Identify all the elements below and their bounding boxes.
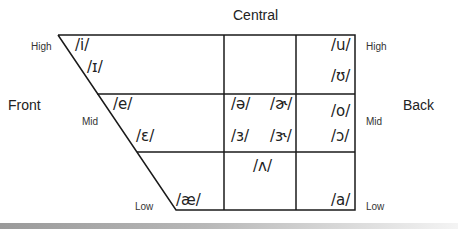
vowel-er: /ɜ/ — [231, 129, 249, 144]
high-label-left: High — [31, 42, 52, 52]
vowel-schwar: /ɚ/ — [270, 97, 292, 112]
mid-label-right: Mid — [366, 117, 382, 127]
vowel-schwa: /ə/ — [231, 97, 250, 112]
vowel-u: /u/ — [331, 38, 351, 53]
vowel-ae: /æ/ — [176, 193, 201, 208]
high-label-right: High — [366, 42, 387, 52]
vowel-eh: /ɛ/ — [136, 129, 154, 144]
low-label-right: Low — [366, 202, 384, 212]
vowel-a: /a/ — [331, 193, 350, 208]
vowel-e: /e/ — [113, 97, 132, 112]
bottom-shadow-band — [0, 223, 458, 229]
vowel-uh: /ʊ/ — [331, 69, 350, 84]
front-label: Front — [8, 98, 41, 112]
low-label-left: Low — [135, 202, 153, 212]
vowel-openo: /ɔ/ — [331, 129, 349, 144]
vowel-wedge: /ʌ/ — [253, 159, 272, 174]
back-label: Back — [403, 98, 434, 112]
mid-label-left: Mid — [82, 117, 98, 127]
central-label: Central — [233, 8, 278, 22]
vowel-i: /i/ — [75, 38, 89, 53]
vowel-o: /o/ — [331, 104, 350, 119]
vowel-ih: /ɪ/ — [87, 60, 103, 75]
vowel-chart-grid — [0, 0, 458, 229]
vowel-err: /ɝ/ — [270, 129, 292, 144]
